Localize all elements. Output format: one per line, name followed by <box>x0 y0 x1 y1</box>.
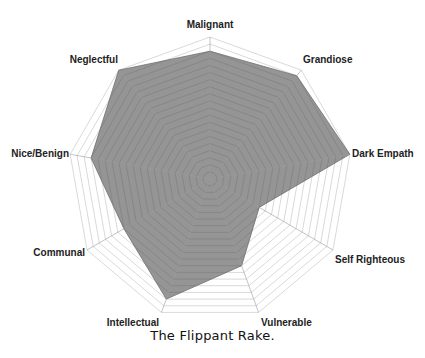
axis-label: Vulnerable <box>261 317 312 328</box>
chart-caption: The Flippant Rake. <box>0 328 425 343</box>
axis-label: Self Righteous <box>335 254 405 265</box>
axis-label: Nice/Benign <box>11 148 69 159</box>
axis-label: Communal <box>33 247 85 258</box>
axis-label: Intellectual <box>107 317 159 328</box>
axis-label: Malignant <box>187 19 234 30</box>
radar-chart: MalignantGrandioseDark EmpathSelf Righte… <box>0 0 425 358</box>
axis-label: Neglectful <box>70 54 119 65</box>
axis-label: Dark Empath <box>352 148 414 159</box>
series-area <box>91 51 350 299</box>
axis-label: Grandiose <box>303 54 353 65</box>
